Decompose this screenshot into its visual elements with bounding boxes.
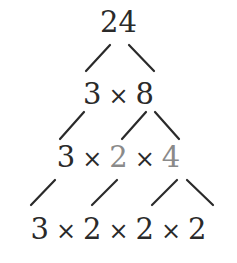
term: 3 bbox=[83, 80, 101, 109]
times-operator: × bbox=[161, 219, 181, 243]
level-2: 3×2×4 bbox=[0, 143, 237, 172]
term: 3 bbox=[57, 143, 75, 172]
times-operator: × bbox=[56, 219, 76, 243]
term-highlighted: 4 bbox=[162, 143, 180, 172]
branch-3-to-3 bbox=[60, 112, 84, 139]
times-operator: × bbox=[135, 147, 155, 171]
branch-4-to-2b bbox=[187, 180, 213, 205]
times-operator: × bbox=[108, 219, 128, 243]
term: 8 bbox=[136, 80, 154, 109]
branch-4-to-2a bbox=[152, 180, 177, 205]
term-highlighted: 2 bbox=[109, 143, 127, 172]
times-operator: × bbox=[108, 84, 128, 108]
term: 3 bbox=[30, 215, 48, 244]
term: 24 bbox=[100, 8, 137, 37]
branch-24-to-3 bbox=[86, 45, 110, 71]
branch-8-to-4 bbox=[155, 112, 179, 139]
branch-3-to-3b bbox=[31, 180, 55, 205]
branch-2-to-2 bbox=[92, 180, 117, 205]
term: 2 bbox=[136, 215, 154, 244]
branch-24-to-8 bbox=[129, 45, 154, 71]
level-1: 3×8 bbox=[0, 80, 237, 109]
level-0: 24 bbox=[0, 8, 237, 37]
level-3: 3×2×2×2 bbox=[0, 215, 237, 244]
times-operator: × bbox=[82, 147, 102, 171]
branch-8-to-2 bbox=[122, 112, 146, 139]
term: 2 bbox=[188, 215, 206, 244]
term: 2 bbox=[83, 215, 101, 244]
factor-tree-diagram: 24 3×8 3×2×4 3×2×2×2 bbox=[0, 0, 237, 263]
